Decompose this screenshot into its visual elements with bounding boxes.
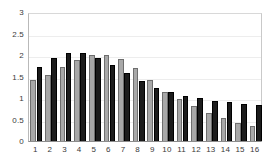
- bar[interactable]: [256, 105, 262, 141]
- bar[interactable]: [30, 80, 36, 141]
- y-tick-label: 0.5: [12, 117, 24, 125]
- bar-group: [177, 14, 189, 141]
- x-tick-label: 8: [135, 146, 140, 154]
- y-tick-label: 0: [19, 138, 24, 146]
- bar[interactable]: [147, 80, 153, 141]
- x-tick-label: 6: [106, 146, 111, 154]
- bar[interactable]: [37, 67, 43, 141]
- bar-group: [133, 14, 145, 141]
- bar[interactable]: [227, 102, 233, 141]
- x-tick-label: 16: [250, 146, 259, 154]
- bar[interactable]: [162, 92, 168, 141]
- y-tick-label: 1.5: [12, 74, 24, 82]
- x-tick-label: 2: [48, 146, 53, 154]
- bar[interactable]: [104, 55, 110, 141]
- bar[interactable]: [60, 67, 66, 141]
- bar-group: [104, 14, 116, 141]
- bar[interactable]: [235, 123, 241, 141]
- bar[interactable]: [133, 68, 139, 141]
- bar-group: [89, 14, 101, 141]
- x-tick-label: 3: [62, 146, 67, 154]
- x-axis: 12345678910111213141516: [28, 146, 262, 162]
- bar[interactable]: [74, 60, 80, 141]
- bar[interactable]: [177, 99, 183, 141]
- bar[interactable]: [139, 81, 145, 141]
- bar[interactable]: [118, 59, 124, 141]
- x-tick-label: 15: [235, 146, 244, 154]
- bar[interactable]: [191, 106, 197, 141]
- y-tick-label: 1: [19, 95, 24, 103]
- x-tick-label: 7: [121, 146, 126, 154]
- bar[interactable]: [110, 65, 116, 141]
- x-tick-label: 13: [206, 146, 215, 154]
- bar-group: [74, 14, 86, 141]
- bar[interactable]: [89, 55, 95, 141]
- bar[interactable]: [221, 118, 227, 141]
- bar[interactable]: [206, 113, 212, 141]
- x-tick-label: 14: [221, 146, 230, 154]
- bar[interactable]: [241, 104, 247, 141]
- bar[interactable]: [80, 53, 86, 141]
- y-tick-label: 3: [19, 9, 24, 17]
- plot-area: [28, 13, 262, 142]
- bar-group: [191, 14, 203, 141]
- bar[interactable]: [66, 53, 72, 141]
- bar[interactable]: [154, 88, 160, 141]
- bar-group: [221, 14, 233, 141]
- bar-group: [45, 14, 57, 141]
- x-tick-label: 10: [162, 146, 171, 154]
- x-tick-label: 5: [91, 146, 96, 154]
- x-tick-label: 1: [33, 146, 38, 154]
- bar[interactable]: [168, 92, 174, 141]
- bar[interactable]: [124, 73, 130, 141]
- y-tick-label: 2.5: [12, 31, 24, 39]
- bar-group: [30, 14, 42, 141]
- x-tick-label: 11: [177, 146, 186, 154]
- bar[interactable]: [95, 58, 101, 141]
- bars-layer: [29, 14, 261, 141]
- bar-group: [162, 14, 174, 141]
- bar-group: [250, 14, 262, 141]
- bar-chart: 00.511.522.53 12345678910111213141516: [0, 0, 274, 167]
- bar[interactable]: [45, 75, 51, 141]
- bar-group: [147, 14, 159, 141]
- x-tick-label: 9: [150, 146, 155, 154]
- bar-group: [60, 14, 72, 141]
- y-tick-label: 2: [19, 52, 24, 60]
- x-tick-label: 4: [77, 146, 82, 154]
- bar[interactable]: [212, 101, 218, 141]
- bar[interactable]: [197, 98, 203, 141]
- bar-group: [235, 14, 247, 141]
- bar[interactable]: [51, 58, 57, 141]
- x-tick-label: 12: [192, 146, 201, 154]
- bar-group: [206, 14, 218, 141]
- bar-group: [118, 14, 130, 141]
- y-axis: 00.511.522.53: [0, 0, 28, 167]
- bar[interactable]: [183, 96, 189, 141]
- bar[interactable]: [250, 126, 256, 141]
